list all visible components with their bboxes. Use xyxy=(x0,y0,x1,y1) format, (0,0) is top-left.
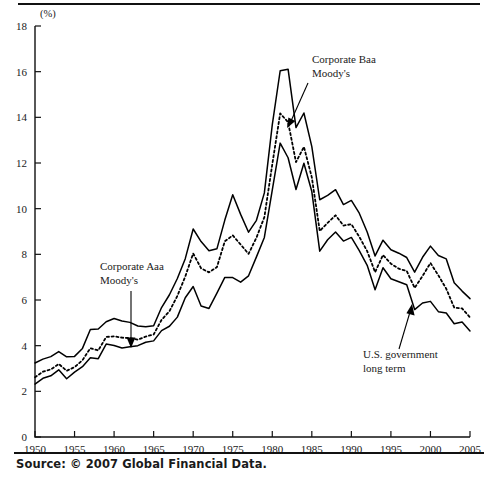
annotation-aaa-line1: Corporate Aaa xyxy=(100,260,164,272)
annotation-gov-line2: long term xyxy=(363,362,406,374)
y-axis-tick-label: 2 xyxy=(22,385,28,397)
annotation-baa-line1: Corporate Baa xyxy=(312,53,376,65)
annotation-gov-line1: U.S. government xyxy=(363,348,438,360)
x-axis-tick-label: 1990 xyxy=(340,443,363,452)
annotation-gov-leader xyxy=(399,312,410,349)
line-chart: 024681012141618(%)1950195519601965197019… xyxy=(0,0,498,452)
annotation-baa-line2: Moody's xyxy=(312,67,350,79)
series-line-corporate-aaa-moody-s xyxy=(35,113,470,377)
y-axis-unit-label: (%) xyxy=(40,8,56,20)
x-axis-tick-label: 1975 xyxy=(222,443,245,452)
annotation-baa-leader xyxy=(291,83,308,121)
x-axis-tick-label: 1965 xyxy=(143,443,166,452)
y-axis-tick-label: 14 xyxy=(16,111,28,123)
y-axis-tick-label: 16 xyxy=(16,66,28,78)
x-axis-tick-label: 1980 xyxy=(261,443,284,452)
bottom-divider-rule xyxy=(14,452,484,454)
chart-axes xyxy=(35,26,470,437)
x-axis-tick-label: 1950 xyxy=(24,443,47,452)
annotation-aaa-line2: Moody's xyxy=(100,274,138,286)
x-axis-tick-label: 1970 xyxy=(182,443,205,452)
x-axis-tick-label: 2005 xyxy=(459,443,482,452)
source-note: Source: © 2007 Global Financial Data. xyxy=(16,457,267,471)
y-axis-tick-label: 10 xyxy=(16,203,28,215)
x-axis-tick-label: 2000 xyxy=(419,443,442,452)
y-axis-tick-label: 12 xyxy=(16,157,27,169)
series-line-corporate-baa-moody-s xyxy=(35,69,470,363)
x-axis-tick-label: 1995 xyxy=(380,443,403,452)
y-axis-tick-label: 0 xyxy=(22,431,28,443)
x-axis-tick-label: 1960 xyxy=(103,443,126,452)
y-axis-tick-label: 18 xyxy=(16,20,28,32)
figure-page: 024681012141618(%)1950195519601965197019… xyxy=(0,0,498,492)
y-axis-tick-label: 4 xyxy=(22,340,28,352)
x-axis-tick-label: 1985 xyxy=(301,443,324,452)
y-axis-tick-label: 6 xyxy=(22,294,28,306)
x-axis-tick-label: 1955 xyxy=(64,443,87,452)
y-axis-tick-label: 8 xyxy=(22,248,28,260)
